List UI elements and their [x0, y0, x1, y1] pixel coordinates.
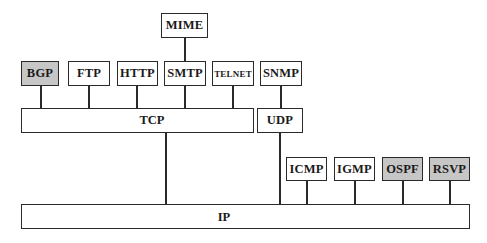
- bgp-box: BGP: [21, 61, 59, 86]
- igmp-box: IGMP: [334, 157, 375, 181]
- connector-mime-smtp: [184, 37, 186, 62]
- telnet-box: TELNET: [212, 61, 254, 86]
- http-box: HTTP: [117, 61, 158, 86]
- connector-smtp-tcp: [184, 85, 186, 109]
- icmp-box: ICMP: [286, 157, 327, 181]
- smtp-box: SMTP: [164, 61, 206, 86]
- connector-tcp-ip: [165, 132, 167, 205]
- ip-box: [21, 204, 470, 229]
- protocol-diagram: MIME BGP FTP HTTP SMTP TELNET SNMP TCP U…: [0, 0, 487, 243]
- ftp-box: FTP: [68, 61, 110, 86]
- udp-box: UDP: [257, 108, 303, 133]
- connector-http-tcp: [136, 85, 138, 109]
- ospf-box: OSPF: [382, 157, 423, 181]
- tcp-label: TCP: [140, 113, 165, 128]
- tcp-box: [21, 108, 254, 133]
- mime-box: MIME: [161, 13, 208, 38]
- connector-rsvp-ip: [449, 180, 451, 205]
- connector-ospf-ip: [402, 180, 404, 205]
- connector-ftp-tcp: [88, 85, 90, 109]
- snmp-box: SNMP: [260, 61, 302, 86]
- rsvp-box: RSVP: [429, 157, 470, 181]
- ip-label: IP: [218, 210, 231, 225]
- connector-bgp-tcp: [40, 85, 42, 109]
- connector-udp-ip: [279, 132, 281, 205]
- connector-icmp-ip: [306, 180, 308, 205]
- connector-igmp-ip: [354, 180, 356, 205]
- connector-telnet-tcp: [232, 85, 234, 109]
- connector-snmp-udp: [280, 85, 282, 109]
